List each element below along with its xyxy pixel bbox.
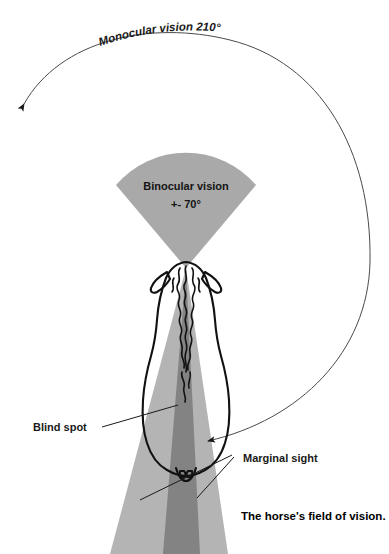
figure-container: Monocular vision 210° Binocular vision +… bbox=[0, 0, 389, 554]
binocular-vision-cone bbox=[116, 153, 256, 268]
figure-caption: The horse's field of vision. bbox=[241, 510, 386, 522]
binocular-vision-label-line1: Binocular vision bbox=[143, 180, 229, 192]
horse-vision-diagram: Monocular vision 210° Binocular vision +… bbox=[0, 0, 389, 554]
binocular-vision-label-line2: +- 70° bbox=[171, 198, 201, 210]
marginal-sight-label: Marginal sight bbox=[243, 452, 318, 464]
monocular-vision-label: Monocular vision 210° bbox=[97, 20, 221, 47]
blind-spot-label: Blind spot bbox=[33, 421, 87, 433]
